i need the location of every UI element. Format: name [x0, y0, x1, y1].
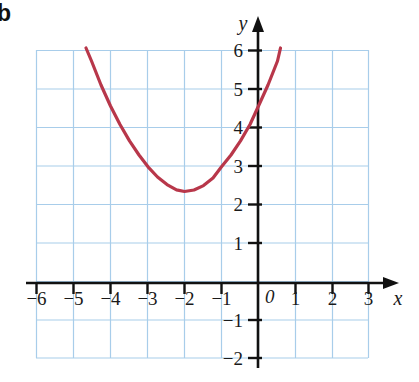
origin-label: 0: [265, 286, 275, 307]
y-tick-label: 2: [234, 194, 244, 215]
x-tick-labels: −6 −5 −4 −3 −2 −1 1 2 3: [26, 288, 373, 309]
x-axis-ticks: [37, 283, 369, 294]
x-tick-label: −5: [63, 288, 83, 309]
x-tick-label: 1: [291, 288, 301, 309]
x-tick-label: −2: [174, 288, 194, 309]
axes: [26, 16, 399, 368]
graph-svg: −6 −5 −4 −3 −2 −1 1 2 3 6 5 4 3 2 1 −1 −…: [0, 0, 419, 382]
y-tick-label: 3: [234, 156, 244, 177]
y-tick-label: 6: [234, 40, 244, 61]
y-tick-label: −1: [223, 310, 243, 331]
x-axis-label: x: [393, 287, 403, 309]
y-tick-label: 4: [234, 117, 244, 138]
parabola-curve: [86, 48, 281, 192]
x-tick-label: 3: [364, 288, 374, 309]
y-axis-ticks: [248, 51, 262, 359]
y-tick-label: 5: [234, 79, 244, 100]
x-tick-label: −1: [211, 288, 231, 309]
part-label: b: [0, 2, 11, 25]
y-tick-label: −2: [223, 348, 243, 369]
x-tick-label: 2: [328, 288, 338, 309]
x-tick-label: −4: [100, 288, 121, 309]
grid-lines: [36, 50, 369, 358]
y-tick-label: 1: [234, 233, 244, 254]
x-tick-label: −6: [26, 288, 46, 309]
x-tick-label: −3: [137, 288, 157, 309]
y-axis-label: y: [237, 12, 248, 35]
y-axis-arrow: [252, 16, 264, 32]
figure-container: b: [0, 0, 419, 382]
